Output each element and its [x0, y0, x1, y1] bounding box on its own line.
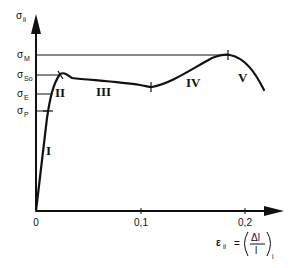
fraction-denominator: l — [255, 245, 257, 256]
x-tick-labels: 0 0,1 0,2 — [33, 217, 252, 228]
fraction-numerator: Δl — [251, 232, 260, 243]
region-label-iv: IV — [186, 75, 201, 90]
sigma-e-subscript: E — [24, 94, 29, 101]
sigma-e-symbol: σ — [17, 88, 24, 99]
x-axis-subscript: ii — [223, 243, 227, 250]
region-label-i: I — [46, 143, 51, 158]
region-label-ii: II — [55, 85, 65, 100]
y-axis-arrow-icon — [31, 14, 41, 34]
y-axis-symbol: σ — [16, 10, 23, 21]
stress-strain-curve — [36, 55, 264, 211]
stress-level-labels: σ M σ So σ E σ P — [17, 49, 33, 118]
left-paren — [245, 232, 249, 256]
sigma-m-symbol: σ — [17, 49, 24, 60]
sigma-so-symbol: σ — [17, 69, 24, 80]
x-tick-label-0.1: 0,1 — [134, 217, 148, 228]
x-axis-symbol: ε — [216, 237, 221, 248]
x-axis-outer-subscript: i — [272, 253, 274, 260]
region-label-v: V — [238, 70, 248, 85]
x-axis-arrow-icon — [264, 206, 284, 216]
x-axis-label: ε ii = Δl l i — [216, 232, 274, 260]
y-axis-subscript: ii — [23, 16, 27, 23]
right-paren — [267, 232, 271, 256]
stress-strain-diagram: σ ii σ M σ So σ E σ P I II III IV V 0 — [0, 0, 296, 268]
axes — [31, 14, 284, 216]
sigma-p-subscript: P — [24, 111, 29, 118]
sigma-m-subscript: M — [24, 55, 30, 62]
region-labels: I II III IV V — [46, 70, 248, 158]
x-axis-equals: = — [234, 238, 240, 249]
sigma-p-symbol: σ — [17, 105, 24, 116]
region-label-iii: III — [96, 84, 111, 99]
x-tick-label-0: 0 — [33, 217, 39, 228]
y-axis-label: σ ii — [16, 10, 27, 23]
sigma-so-subscript: So — [24, 75, 33, 82]
x-tick-label-0.2: 0,2 — [238, 217, 252, 228]
